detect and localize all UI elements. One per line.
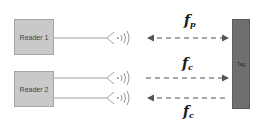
reader-2-upper-antenna-icon — [54, 71, 129, 85]
link-fc-backward-label: fc — [183, 104, 194, 119]
link-fp-label: fp — [184, 13, 196, 28]
diagram-connections — [0, 0, 260, 123]
link-fc-forward-label: fc — [182, 56, 193, 71]
reader-1-antenna-icon — [54, 31, 129, 45]
reader-2-lower-antenna-icon — [54, 91, 129, 105]
